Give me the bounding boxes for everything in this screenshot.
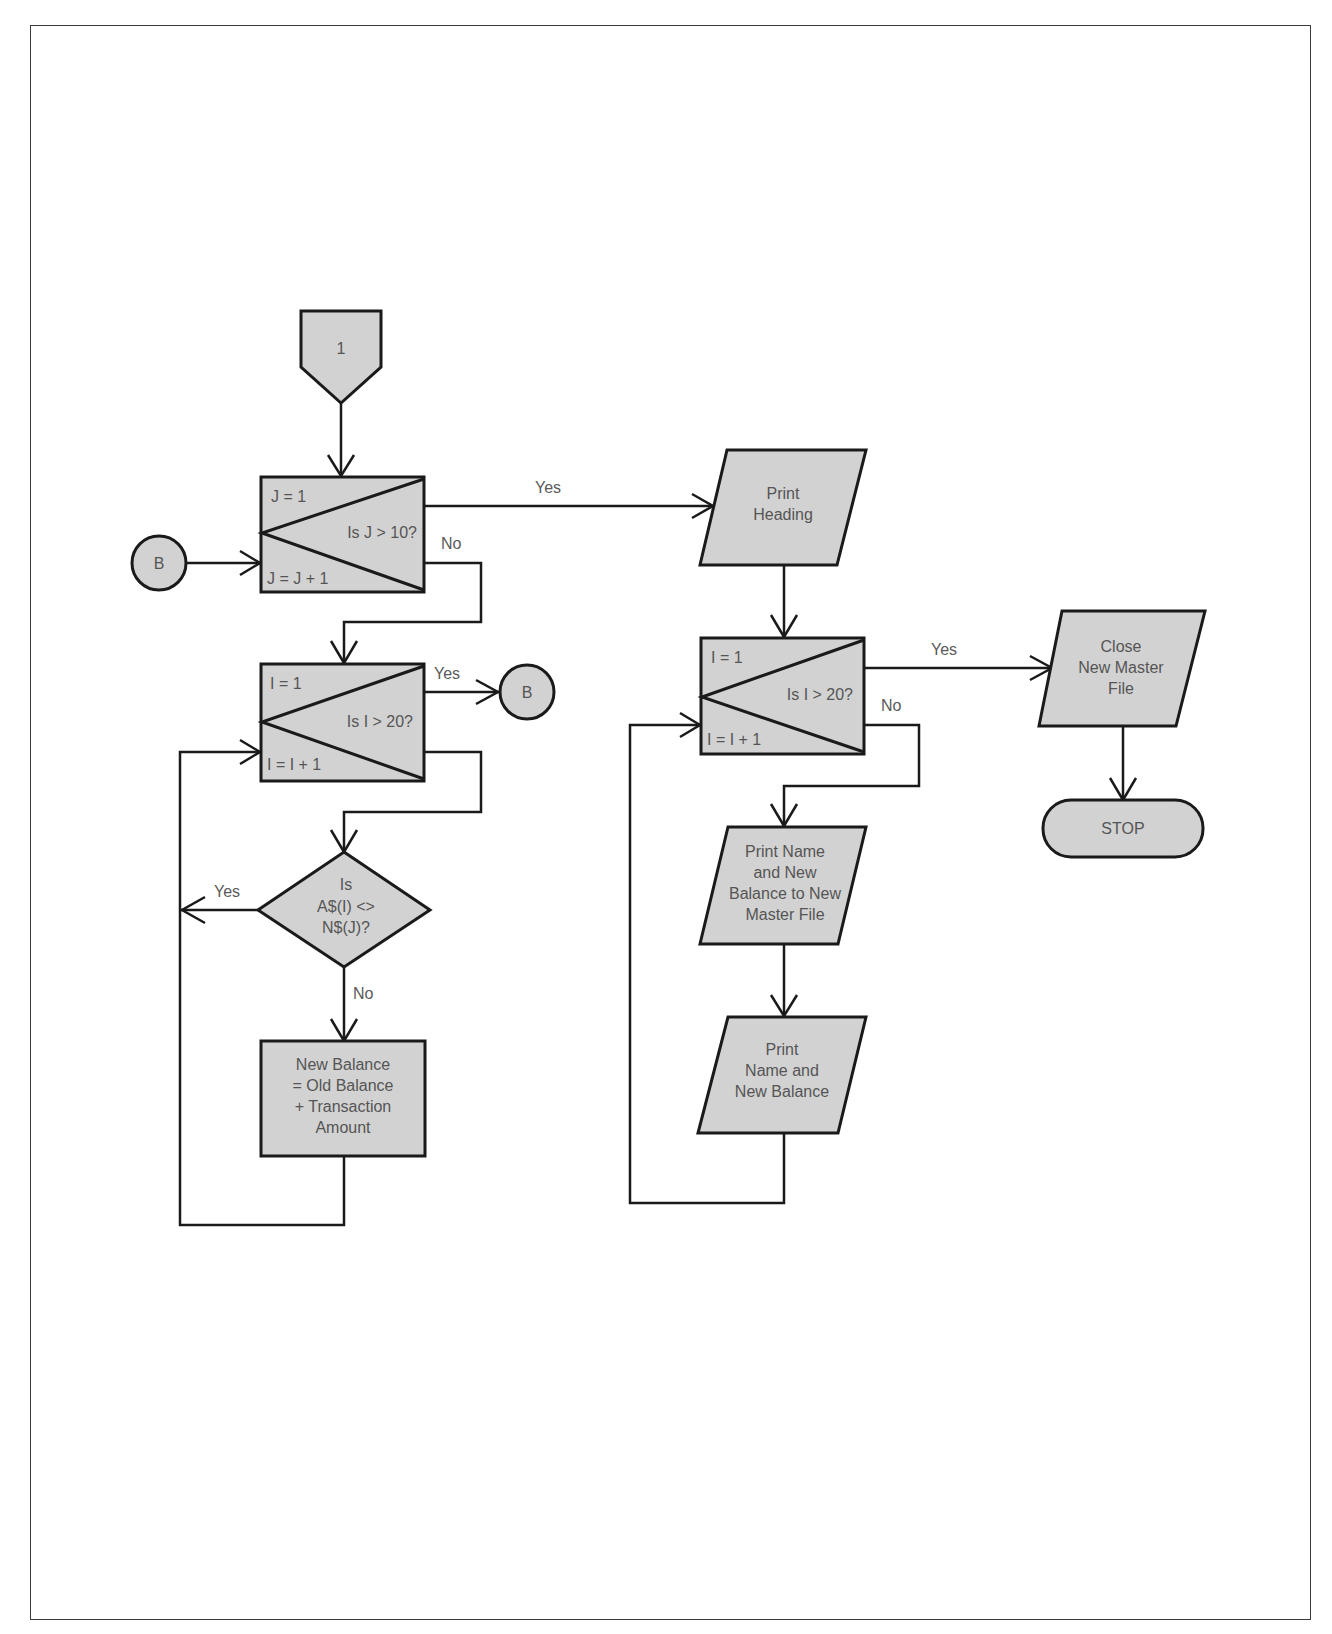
connector-b-out: B (500, 665, 554, 719)
process-line-4: Amount (315, 1119, 371, 1136)
print-master-line-3: Balance to New (729, 885, 842, 902)
print-master-line-2: and New (753, 864, 817, 881)
print-name-line-3: New Balance (735, 1083, 829, 1100)
loop-i-right-init: I = 1 (711, 649, 743, 666)
print-master-line-1: Print Name (745, 843, 825, 860)
print-name-line-2: Name and (745, 1062, 819, 1079)
connector-b-in-label: B (154, 555, 165, 572)
print-master-line-4: Master File (745, 906, 824, 923)
io-print-name: Print Name and New Balance (698, 1017, 866, 1133)
loop-i-right-incr: I = I + 1 (707, 731, 761, 748)
offpage-connector-label: 1 (337, 340, 346, 357)
process-new-balance: New Balance = Old Balance + Transaction … (261, 1041, 425, 1156)
io-close-master: Close New Master File (1039, 611, 1205, 726)
loop-box-i-right: I = 1 Is I > 20? I = I + 1 (701, 638, 864, 754)
print-name-line-1: Print (766, 1041, 799, 1058)
process-line-3: + Transaction (295, 1098, 392, 1115)
edge-label-compare-no: No (353, 985, 374, 1002)
decision-line-3: N$(J)? (322, 919, 370, 936)
edge-label-i-right-no: No (881, 697, 902, 714)
edge-label-i-left-yes: Yes (434, 665, 460, 682)
connector-b-in: B (132, 536, 186, 590)
loop-i-right-test: Is I > 20? (787, 686, 853, 703)
edge-label-j-no: No (441, 535, 462, 552)
close-master-line-3: File (1108, 680, 1134, 697)
edge-label-compare-yes: Yes (214, 883, 240, 900)
loop-j-init: J = 1 (271, 488, 306, 505)
loop-j-test: Is J > 10? (347, 524, 417, 541)
process-line-1: New Balance (296, 1056, 390, 1073)
loop-i-left-test: Is I > 20? (347, 713, 413, 730)
decision-line-2: A$(I) <> (317, 898, 375, 915)
io-print-to-master: Print Name and New Balance to New Master… (700, 827, 866, 944)
terminal-stop: STOP (1043, 800, 1203, 857)
loop-i-left-init: I = 1 (270, 675, 302, 692)
loop-i-left-incr: I = I + 1 (267, 756, 321, 773)
connector-b-out-label: B (522, 684, 533, 701)
print-heading-line-1: Print (767, 485, 800, 502)
decision-line-1: Is (340, 876, 352, 893)
terminal-stop-label: STOP (1101, 820, 1144, 837)
io-print-heading: Print Heading (700, 450, 866, 565)
loop-box-i-left: I = 1 Is I > 20? I = I + 1 (261, 664, 424, 781)
process-line-2: = Old Balance (293, 1077, 394, 1094)
loop-j-incr: J = J + 1 (267, 570, 328, 587)
close-master-line-2: New Master (1078, 659, 1164, 676)
decision-compare: Is A$(I) <> N$(J)? (258, 852, 430, 967)
close-master-line-1: Close (1101, 638, 1142, 655)
print-heading-line-2: Heading (753, 506, 813, 523)
loop-box-j: J = 1 Is J > 10? J = J + 1 (261, 477, 424, 592)
flowchart: 1 J = 1 Is J > 10? J = J + 1 B Yes No I … (0, 0, 1332, 1634)
edge-label-j-yes: Yes (535, 479, 561, 496)
edge-label-i-right-yes: Yes (931, 641, 957, 658)
offpage-connector-1: 1 (301, 311, 381, 403)
